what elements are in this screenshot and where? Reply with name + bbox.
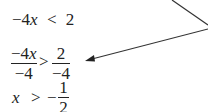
annotation-arrow	[0, 0, 208, 112]
arrow-head-icon	[85, 55, 95, 62]
callout-line	[172, 0, 208, 25]
arrow-shaft	[90, 29, 208, 60]
